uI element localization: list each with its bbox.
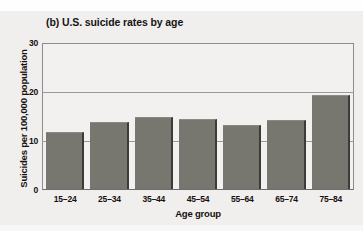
x-tick-label: 35–44	[132, 194, 176, 204]
x-tick-label: 15–24	[43, 194, 87, 204]
y-axis-label: Suicides per 100,000 population	[18, 34, 29, 204]
x-tick-labels: 15–2425–3435–4445–5455–6465–7475–84	[43, 194, 353, 204]
x-tick-label: 75–84	[309, 194, 353, 204]
bar[interactable]	[135, 117, 173, 189]
x-tick-label: 55–64	[220, 194, 264, 204]
x-axis-label: Age group	[42, 208, 354, 219]
bar-slot	[176, 44, 220, 189]
bar[interactable]	[267, 120, 305, 189]
x-tick-label: 45–54	[176, 194, 220, 204]
x-tick-label: 25–34	[87, 194, 131, 204]
chart-title: (b) U.S. suicide rates by age	[46, 16, 183, 28]
paper-edge-top	[0, 0, 363, 11]
paper-edge-bottom	[0, 225, 363, 231]
bar-slot	[43, 44, 87, 189]
x-tick-label: 65–74	[264, 194, 308, 204]
y-tick-label: 0	[14, 185, 38, 195]
bar[interactable]	[46, 132, 84, 189]
bar-slot	[309, 44, 353, 189]
bar-slot	[220, 44, 264, 189]
bar-slot	[264, 44, 308, 189]
bar[interactable]	[312, 95, 350, 189]
y-tick-label: 20	[14, 87, 38, 97]
bar[interactable]	[179, 119, 217, 189]
bar-series	[43, 44, 353, 189]
bar-slot	[132, 44, 176, 189]
figure-panel: (b) U.S. suicide rates by age Suicides p…	[0, 0, 363, 231]
bar[interactable]	[223, 125, 261, 189]
y-tick-label: 10	[14, 136, 38, 146]
bar-slot	[87, 44, 131, 189]
bar[interactable]	[90, 122, 128, 189]
y-tick-label: 30	[14, 38, 38, 48]
